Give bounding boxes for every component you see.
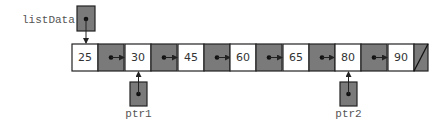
node-4: 65: [283, 44, 335, 71]
node-value: 25: [78, 51, 92, 64]
node-value: 80: [341, 51, 355, 64]
node-6: 90: [388, 44, 428, 71]
external-pointer-ptr1: ptr1: [125, 72, 152, 120]
node-value: 60: [236, 51, 250, 64]
node-3: 60: [230, 44, 282, 71]
node-value: 65: [289, 51, 303, 64]
node-5: 80: [335, 44, 387, 71]
linked-list-diagram: listData 25 30 45 60 65: [0, 0, 447, 120]
head-pointer: listData: [22, 6, 95, 43]
node-2: 45: [178, 44, 230, 71]
ptr2-label: ptr2: [335, 108, 361, 120]
node-0: 25: [72, 44, 124, 71]
node-value: 45: [184, 51, 198, 64]
node-value: 30: [131, 51, 145, 64]
node-1: 30: [125, 44, 177, 71]
node-value: 90: [394, 51, 408, 64]
ptr1-label: ptr1: [125, 108, 152, 120]
external-pointer-ptr2: ptr2: [335, 72, 361, 120]
head-pointer-label: listData: [22, 14, 75, 26]
